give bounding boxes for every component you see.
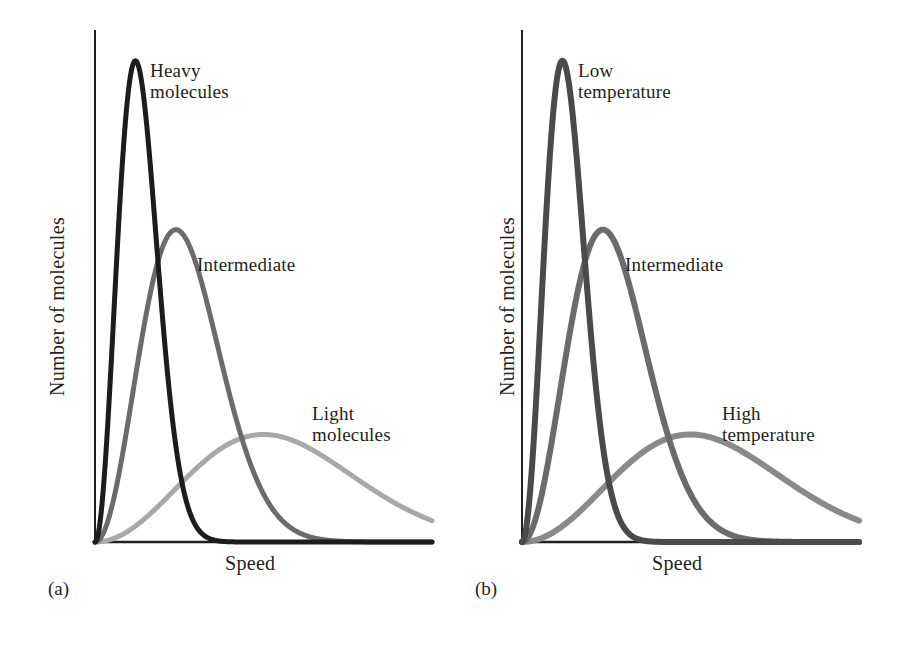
panel-a-y-axis-label: Number of molecules bbox=[46, 217, 69, 396]
annotation-heavy-molecules: Heavy molecules bbox=[150, 60, 229, 103]
annotation-low-temperature: Low temperature bbox=[578, 60, 671, 103]
annotation-intermediate-b: Intermediate bbox=[625, 254, 723, 275]
annotation-light-molecules: Light molecules bbox=[312, 403, 391, 446]
panel-a-x-axis-label: Speed bbox=[225, 552, 275, 575]
panel-b-y-axis-label: Number of molecules bbox=[496, 217, 519, 396]
annotation-heavy-molecules-line1: Heavy bbox=[150, 60, 229, 81]
panel-a: Number of molecules Speed Heavy molecule… bbox=[0, 0, 449, 646]
annotation-high-temperature: High temperature bbox=[722, 403, 815, 446]
panel-b-x-axis-label: Speed bbox=[652, 552, 702, 575]
annotation-light-molecules-line1: Light bbox=[312, 403, 391, 424]
annotation-light-molecules-line2: molecules bbox=[312, 424, 391, 445]
panel-a-caption: (a) bbox=[48, 578, 69, 600]
curve-low-temperature bbox=[522, 61, 859, 542]
panel-b-caption: (b) bbox=[475, 578, 497, 600]
annotation-low-temperature-line2: temperature bbox=[578, 81, 671, 102]
annotation-high-temperature-line1: High bbox=[722, 403, 815, 424]
annotation-high-temperature-line2: temperature bbox=[722, 424, 815, 445]
annotation-low-temperature-line1: Low bbox=[578, 60, 671, 81]
annotation-heavy-molecules-line2: molecules bbox=[150, 81, 229, 102]
panel-b-curves bbox=[522, 61, 859, 542]
annotation-intermediate-a: Intermediate bbox=[197, 254, 295, 275]
panel-b: Number of molecules Speed Low temperatur… bbox=[450, 0, 899, 646]
curve-heavy-molecules bbox=[95, 61, 432, 542]
curve-light-molecules bbox=[95, 434, 432, 542]
panel-a-curves bbox=[95, 61, 432, 542]
figure-maxwell-boltzmann-distributions: Number of molecules Speed Heavy molecule… bbox=[0, 0, 899, 646]
